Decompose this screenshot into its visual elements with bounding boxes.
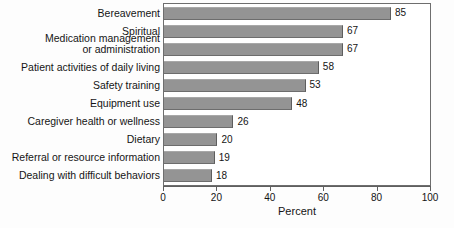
category-label: Caregiver health or wellness (0, 116, 160, 127)
x-axis-tick-label: 60 (318, 192, 329, 203)
category-label: Bereavement (0, 8, 160, 19)
x-axis-tick-label: 0 (160, 192, 166, 203)
bar (164, 43, 343, 56)
x-axis-tick (216, 187, 217, 191)
bar-series: 85676758534826201918 (164, 4, 431, 185)
bar-value-label: 67 (347, 26, 358, 36)
bar-row: 19 (164, 151, 431, 164)
category-label: Safety training (0, 80, 160, 91)
x-axis-tick-label: 20 (211, 192, 222, 203)
x-axis-tick (377, 187, 378, 191)
bar (164, 169, 212, 182)
chart-figure: BereavementSpiritualMedication managemen… (0, 0, 454, 228)
bar (164, 61, 319, 74)
category-label: Dietary (0, 134, 160, 145)
x-axis-tick-label: 40 (264, 192, 275, 203)
bar-value-label: 20 (221, 135, 232, 145)
x-axis-line: 020406080100 (163, 186, 431, 187)
bar (164, 79, 306, 92)
x-axis-title: Percent (163, 205, 431, 217)
bar (164, 115, 233, 128)
bar-value-label: 85 (395, 8, 406, 18)
bar-row: 18 (164, 169, 431, 182)
bar-value-label: 48 (296, 99, 307, 109)
x-axis-tick (163, 187, 164, 191)
bar-row: 58 (164, 61, 431, 74)
bar (164, 133, 217, 146)
bar-value-label: 19 (219, 153, 230, 163)
x-axis-tick (430, 187, 431, 191)
bar (164, 7, 391, 20)
bar-row: 26 (164, 115, 431, 128)
bar-row: 67 (164, 25, 431, 38)
bar-value-label: 67 (347, 44, 358, 54)
x-axis-tick (270, 187, 271, 191)
bar-row: 85 (164, 7, 431, 20)
category-label: Medication managementor administration (0, 33, 160, 55)
bar-value-label: 18 (216, 171, 227, 181)
category-label: Referral or resource information (0, 152, 160, 163)
category-axis-labels: BereavementSpiritualMedication managemen… (0, 4, 160, 185)
bar-value-label: 26 (237, 117, 248, 127)
category-label: Dealing with difficult behaviors (0, 170, 160, 181)
bar (164, 151, 215, 164)
category-label: Equipment use (0, 98, 160, 109)
x-axis-tick (323, 187, 324, 191)
bar-value-label: 53 (310, 80, 321, 90)
x-axis-tick-label: 80 (371, 192, 382, 203)
bar (164, 25, 343, 38)
bar-value-label: 58 (323, 62, 334, 72)
bar-row: 48 (164, 97, 431, 110)
bar-row: 20 (164, 133, 431, 146)
category-label: Patient activities of daily living (0, 62, 160, 73)
bar-row: 67 (164, 43, 431, 56)
x-axis-tick-label: 100 (422, 192, 439, 203)
bar-row: 53 (164, 79, 431, 92)
bar (164, 97, 292, 110)
